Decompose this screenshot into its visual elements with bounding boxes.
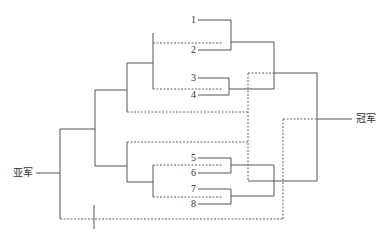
tournament-bracket-diagram: 1 2 3 4 5 6 7 8 冠军 亚军: [0, 0, 387, 242]
champion-label: 冠军: [356, 114, 376, 124]
participant-6-label: 6: [186, 168, 196, 178]
participant-5-label: 5: [186, 153, 196, 163]
participant-7-label: 7: [186, 184, 196, 194]
participant-4-label: 4: [186, 90, 196, 100]
participant-8-label: 8: [186, 199, 196, 209]
participant-3-label: 3: [186, 73, 196, 83]
participant-2-label: 2: [186, 45, 196, 55]
runner-up-label: 亚军: [13, 168, 33, 178]
participant-1-label: 1: [186, 15, 196, 25]
